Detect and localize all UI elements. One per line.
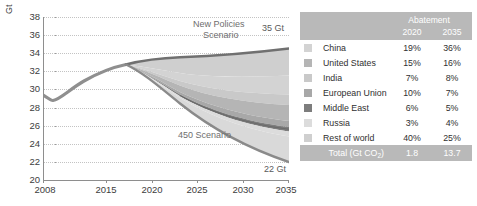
x-tick-mark [288,180,289,183]
y-tick-label: 30 [16,84,40,94]
x-tick-label: 2025 [186,184,207,195]
row-value-2020: 19% [392,40,432,55]
total-label-main: Total (Gt CO [329,148,378,158]
row-label: India [320,70,392,85]
table-row[interactable]: India 7% 8% [300,70,472,85]
swatch-cell [300,55,320,70]
table-header-row-group: Abatement [300,12,472,26]
table-row[interactable]: China 19% 36% [300,40,472,55]
y-axis-title: Gt [4,4,14,14]
legend-swatch-middle-east [304,104,312,112]
total-label-subscript: 2 [377,152,381,159]
x-tick-label: 2030 [232,184,253,195]
row-value-2035: 16% [432,55,472,70]
table-row[interactable]: Rest of world 40% 25% [300,130,472,145]
swatch-cell [300,70,320,85]
total-label-end: ) [381,148,384,158]
header-col-2035: 2035 [432,26,472,40]
legend-swatch-china [304,44,312,52]
y-tick-label: 22 [16,157,40,167]
row-value-2020: 40% [392,130,432,145]
annotation-450-scenario: 450 Scenario [178,130,231,140]
row-value-2020: 10% [392,85,432,100]
legend-swatch-russia [304,119,312,127]
header-spacer-swatch-2 [300,26,320,40]
table-row[interactable]: Middle East 6% 5% [300,100,472,115]
row-label: Rest of world [320,130,392,145]
x-tick-mark [197,180,198,183]
legend-table: Abatement 2020 2035 China 19% 36% [300,12,472,161]
row-label: United States [320,55,392,70]
legend-swatch-united-states [304,59,312,67]
row-label: Russia [320,115,392,130]
row-value-2020: 3% [392,115,432,130]
plot-inner [44,17,289,180]
abatement-legend-table: Abatement 2020 2035 China 19% 36% [300,12,472,161]
total-row: Total (Gt CO2) 1.8 13.7 [300,145,472,161]
trunk-line [44,65,126,101]
swatch-cell [300,40,320,55]
x-tick-label: 2008 [34,184,55,195]
x-tick-mark [43,180,44,183]
row-value-2035: 4% [432,115,472,130]
figure-root: Gt 38 36 34 32 30 28 26 24 22 20 [0,0,477,206]
x-tick-mark [243,180,244,183]
header-spacer-swatch [300,12,320,26]
y-tick-label: 26 [16,121,40,131]
table-row[interactable]: Russia 3% 4% [300,115,472,130]
y-tick-label: 32 [16,66,40,76]
y-tick-label: 38 [16,12,40,22]
plot-area [43,17,289,181]
row-value-2020: 7% [392,70,432,85]
annotation-top-value: 35 Gt [262,23,284,33]
legend-table-body: China 19% 36% United States 15% 16% [300,40,472,145]
row-value-2035: 7% [432,85,472,100]
total-2035: 13.7 [432,145,472,161]
x-tick-mark [152,180,153,183]
y-tick-label: 28 [16,103,40,113]
legend-table-foot: Total (Gt CO2) 1.8 13.7 [300,145,472,161]
table-row[interactable]: United States 15% 16% [300,55,472,70]
row-label: China [320,40,392,55]
x-tick-label: 2015 [95,184,116,195]
row-value-2035: 25% [432,130,472,145]
annotation-bottom-value: 22 Gt [264,164,286,174]
header-abatement: Abatement [392,12,472,26]
annotation-new-policies-line1: New Policies [193,19,245,29]
y-tick-label: 34 [16,48,40,58]
row-value-2035: 8% [432,70,472,85]
total-2020: 1.8 [392,145,432,161]
row-label: Middle East [320,100,392,115]
y-axis-ticks: 38 36 34 32 30 28 26 24 22 20 [14,0,40,206]
swatch-cell [300,100,320,115]
x-tick-label: 2020 [141,184,162,195]
row-value-2020: 6% [392,100,432,115]
header-spacer-name-2 [320,26,392,40]
table-header-row-years: 2020 2035 [300,26,472,40]
header-col-2020: 2020 [392,26,432,40]
y-tick-label: 36 [16,30,40,40]
y-tick-label: 24 [16,139,40,149]
swatch-cell [300,130,320,145]
x-tick-label: 2035 [275,184,296,195]
chart-panel: Gt 38 36 34 32 30 28 26 24 22 20 [0,0,297,206]
table-row[interactable]: European Union 10% 7% [300,85,472,100]
swatch-cell [300,85,320,100]
legend-swatch-india [304,74,312,82]
row-label: European Union [320,85,392,100]
legend-swatch-european-union [304,89,312,97]
total-label: Total (Gt CO2) [300,145,392,161]
annotation-new-policies-line2: Scenario [203,30,239,40]
legend-table-head: Abatement 2020 2035 [300,12,472,40]
abatement-wedge-areas [44,17,289,180]
row-value-2035: 5% [432,100,472,115]
legend-swatch-rest-of-world [304,134,312,142]
row-value-2020: 15% [392,55,432,70]
x-axis-ticks: 2008 2015 2020 2025 2030 2035 [0,181,297,206]
row-value-2035: 36% [432,40,472,55]
swatch-cell [300,115,320,130]
x-tick-mark [106,180,107,183]
header-spacer-name [320,12,392,26]
